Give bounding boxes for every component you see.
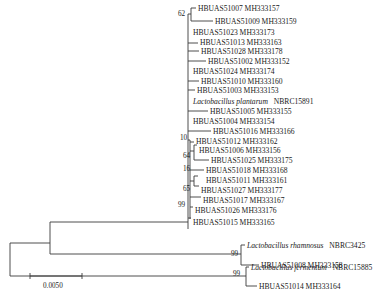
strain-id: NBRC15891 [274, 97, 314, 106]
taxon-label: HBUAS51007 MH333157 [198, 4, 280, 13]
taxon-label: HBUAS51024 MH333174 [193, 67, 275, 76]
taxon-label: HBUAS51009 MH333159 [215, 17, 297, 26]
bootstrap-value: 16 [183, 165, 191, 173]
bootstrap-value: 10 [180, 134, 188, 142]
taxon-label: HBUAS51012 MH333162 [196, 137, 278, 146]
taxon-label: HBUAS51006 MH333156 [199, 146, 281, 155]
phylogenetic-tree: HBUAS51007 MH333157 HBUAS51009 MH333159 … [0, 0, 383, 290]
bootstrap-value: 99 [231, 250, 239, 258]
taxon-label: HBUAS51018 MH333168 [206, 166, 288, 175]
bootstrap-value: 62 [178, 10, 186, 18]
scale-bar-label: 0.0050 [43, 282, 63, 290]
taxon-label: HBUAS51017 MH333167 [203, 196, 285, 205]
taxon-label: HBUAS51015 MH333165 [193, 218, 275, 227]
taxon-label: HBUAS51016 MH333166 [213, 127, 295, 136]
taxon-label: HBUAS51002 MH333152 [208, 57, 290, 66]
taxon-label-species: Lactobacillus rhamnosus NBRC3425 [246, 241, 365, 250]
taxon-label: HBUAS51005 MH333155 [210, 107, 292, 116]
taxon-label: HBUAS51011 MH333161 [206, 176, 288, 185]
taxon-label-species: Lactobacillus fermentum NBRC15885 [250, 263, 372, 272]
scale-bar: 0.0050 [30, 273, 82, 290]
species-name: Lactobacillus plantarum [192, 97, 268, 106]
species-name: Lactobacillus fermentum [250, 263, 327, 272]
taxon-label-species: Lactobacillus plantarum NBRC15891 [192, 97, 314, 106]
taxon-label: HBUAS51027 MH333177 [201, 186, 283, 195]
taxon-label: HBUAS51013 MH333163 [200, 38, 282, 47]
taxon-label: HBUAS51010 MH333160 [201, 77, 283, 86]
taxon-label: HBUAS51014 MH333164 [259, 282, 341, 290]
species-name: Lactobacillus rhamnosus [246, 241, 323, 250]
bootstrap-value: 65 [183, 185, 191, 193]
taxon-label: HBUAS51026 MH333176 [195, 206, 277, 215]
bootstrap-value: 99 [178, 201, 186, 209]
strain-id: NBRC15885 [333, 263, 373, 272]
taxon-label: HBUAS51023 MH333173 [193, 28, 275, 37]
taxon-label: HBUAS51003 MH333153 [197, 86, 279, 95]
bootstrap-value: 99 [233, 270, 241, 278]
taxon-labels: HBUAS51007 MH333157 HBUAS51009 MH333159 … [192, 4, 372, 290]
strain-id: NBRC3425 [329, 241, 365, 250]
bootstrap-value: 64 [183, 152, 191, 160]
taxon-label: HBUAS51025 MH333175 [211, 156, 293, 165]
taxon-label: HBUAS51028 MH333178 [201, 47, 283, 56]
taxon-label: HBUAS51004 MH333154 [193, 117, 275, 126]
